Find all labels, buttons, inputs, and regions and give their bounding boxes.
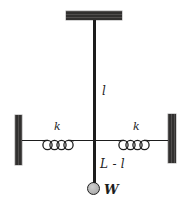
upper-string-length-label: l: [102, 85, 106, 97]
ceiling-support: [66, 11, 122, 20]
left-spring-constant-label: k: [54, 121, 61, 132]
vertical-string: [93, 20, 96, 184]
spring-pendulum-diagram: l k k L - l W: [0, 0, 187, 209]
lower-string-length-label: L - l: [100, 158, 125, 170]
right-wall-support: [168, 114, 176, 163]
left-spring-to-string-wire: [72, 140, 94, 141]
right-spring-lead-wire: [148, 140, 168, 141]
string-to-right-spring-wire: [95, 140, 120, 141]
left-spring-lead-wire: [22, 140, 44, 141]
right-spring-constant-label: k: [133, 121, 140, 132]
weight-ball: [87, 182, 100, 195]
weight-label: W: [104, 183, 119, 196]
left-wall-support: [15, 115, 22, 165]
left-spring-coil: [42, 137, 74, 152]
right-spring-coil: [118, 137, 150, 152]
